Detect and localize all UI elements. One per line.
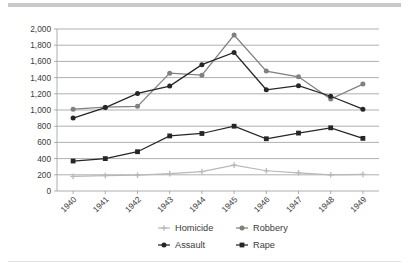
data-point: [103, 105, 108, 110]
x-tick-label: 1947: [284, 194, 304, 214]
legend-marker: [240, 226, 245, 231]
legend-item-robbery[interactable]: Robbery: [236, 223, 288, 233]
legend-item-assault[interactable]: Assault: [158, 240, 206, 250]
x-tick-label: 1940: [58, 194, 78, 214]
gridlines: [57, 29, 379, 175]
y-axis-tickmarks: [54, 29, 57, 191]
data-point: [71, 159, 76, 164]
data-point: [167, 84, 172, 89]
x-tick-label: 1948: [316, 194, 336, 214]
y-tick-label: 1,200: [30, 89, 51, 99]
data-point: [361, 136, 366, 141]
data-point: [296, 83, 301, 88]
data-point: [199, 73, 204, 78]
x-tick-label: 1945: [219, 194, 239, 214]
data-point: [200, 131, 205, 136]
legend-label: Assault: [175, 240, 206, 250]
x-tick-label: 1941: [91, 194, 111, 214]
series-rape: [71, 124, 366, 164]
data-point: [232, 50, 237, 55]
y-tick-label: 0: [46, 186, 51, 196]
data-point: [296, 74, 301, 79]
data-point: [103, 156, 108, 161]
x-tick-label: 1942: [123, 194, 143, 214]
data-point: [328, 125, 333, 130]
data-point: [360, 82, 365, 87]
data-point: [71, 107, 76, 112]
data-point: [167, 71, 172, 76]
data-point: [135, 91, 140, 96]
y-tick-label: 2,000: [30, 24, 51, 34]
x-axis-tickmarks: [73, 191, 363, 194]
data-point: [135, 104, 140, 109]
data-point: [264, 87, 269, 92]
series-line: [73, 35, 363, 109]
legend-marker: [162, 243, 167, 248]
data-series-layer: [70, 33, 365, 180]
legend-item-rape[interactable]: Rape: [236, 240, 275, 250]
data-point: [199, 62, 204, 67]
chart-figure: 02004006008001,0001,2001,4001,6001,8002,…: [0, 0, 409, 267]
x-axis-tick-labels: 1940194119421943194419451946194719481949: [58, 194, 368, 214]
data-point: [71, 116, 76, 121]
y-tick-label: 1,000: [30, 105, 51, 115]
data-point: [264, 136, 269, 141]
x-tick-label: 1949: [348, 194, 368, 214]
series-homicide: [70, 162, 365, 179]
x-tick-label: 1946: [252, 194, 272, 214]
x-tick-label: 1944: [187, 194, 207, 214]
legend-label: Rape: [253, 240, 275, 250]
series-robbery: [71, 33, 366, 112]
chart-legend: HomicideRobberyAssaultRape: [158, 223, 288, 250]
y-tick-label: 800: [37, 121, 51, 131]
legend-label: Homicide: [175, 223, 213, 233]
data-point: [232, 33, 237, 38]
y-tick-label: 200: [37, 170, 51, 180]
series-line: [73, 52, 363, 118]
series-line: [73, 126, 363, 161]
line-chart: 02004006008001,0001,2001,4001,6001,8002,…: [0, 0, 409, 267]
legend-marker: [240, 243, 245, 248]
data-point: [167, 134, 172, 139]
data-point: [264, 69, 269, 74]
y-tick-label: 1,400: [30, 73, 51, 83]
data-point: [328, 94, 333, 99]
y-axis-tick-labels: 02004006008001,0001,2001,4001,6001,8002,…: [30, 24, 51, 196]
data-point: [135, 149, 140, 154]
data-point: [360, 107, 365, 112]
data-point: [232, 124, 237, 129]
x-tick-label: 1943: [155, 194, 175, 214]
legend-item-homicide[interactable]: Homicide: [158, 223, 213, 233]
legend-label: Robbery: [253, 223, 288, 233]
y-tick-label: 1,600: [30, 56, 51, 66]
y-tick-label: 600: [37, 137, 51, 147]
data-point: [296, 131, 301, 136]
y-tick-label: 400: [37, 154, 51, 164]
y-tick-label: 1,800: [30, 40, 51, 50]
